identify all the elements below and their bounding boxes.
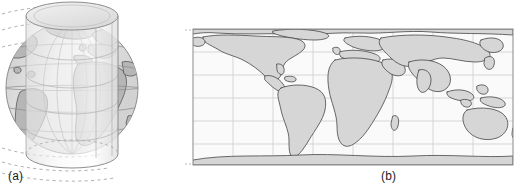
land-antarctica (193, 155, 513, 165)
cylinder-top-cap (26, 2, 118, 30)
caption-a: (a) (8, 170, 23, 182)
panel-globe-cylinder: (a) (0, 0, 185, 190)
panel-world-map: (b) (185, 0, 521, 190)
figure-root: (a) (0, 0, 521, 190)
land-british-isles (333, 47, 340, 54)
land-alaska (193, 37, 205, 46)
cylinder (26, 2, 118, 168)
world-map-illustration (185, 0, 521, 190)
land-caribbean (285, 76, 296, 82)
land-japan (484, 56, 494, 69)
cylinder-body (26, 16, 118, 168)
land-borneo (461, 99, 471, 107)
globe-cylinder-illustration (0, 0, 185, 190)
land-philippines (477, 85, 488, 94)
caption-b: (b) (381, 170, 396, 182)
